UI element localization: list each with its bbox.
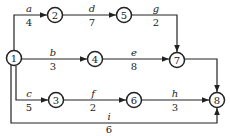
label-h: h [172, 88, 178, 99]
edge-i [11, 65, 217, 123]
label-f: f [90, 88, 97, 99]
duration-b: 3 [50, 61, 56, 72]
label-c: c [26, 88, 32, 99]
duration-g: 2 [153, 17, 159, 28]
node-4: 4 [88, 52, 103, 67]
node-5: 5 [117, 8, 132, 23]
node-6: 6 [127, 93, 142, 108]
label-a: a [26, 3, 32, 14]
duration-d: 7 [89, 17, 95, 28]
duration-a: 4 [26, 17, 32, 28]
svg-text:4: 4 [92, 54, 98, 65]
label-i: i [107, 111, 110, 122]
svg-text:3: 3 [53, 95, 59, 106]
duration-h: 3 [172, 102, 178, 113]
svg-text:6: 6 [131, 95, 137, 106]
svg-text:7: 7 [174, 55, 180, 66]
node-7: 7 [170, 53, 185, 68]
duration-c: 5 [26, 102, 32, 113]
edge-c [16, 66, 48, 100]
svg-text:5: 5 [121, 10, 127, 21]
svg-text:8: 8 [214, 95, 220, 106]
node-3: 3 [49, 93, 64, 108]
network-diagram: a 4 d 7 g 2 b 3 e 8 c 5 f 2 h 3 i 6 1 2 … [0, 0, 230, 136]
label-g: g [153, 3, 159, 14]
node-2: 2 [48, 8, 63, 23]
duration-f: 2 [90, 102, 96, 113]
duration-i: 6 [106, 124, 112, 135]
svg-text:1: 1 [11, 53, 17, 64]
label-b: b [50, 47, 56, 58]
node-8: 8 [210, 93, 225, 108]
svg-text:2: 2 [52, 10, 58, 21]
node-1: 1 [7, 51, 22, 66]
edge-7-8 [185, 59, 217, 92]
label-d: d [89, 3, 95, 14]
label-e: e [131, 47, 137, 58]
duration-e: 8 [131, 61, 137, 72]
